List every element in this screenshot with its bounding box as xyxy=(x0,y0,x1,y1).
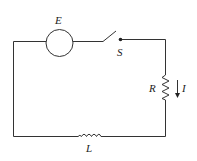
source-label: E xyxy=(54,14,62,26)
switch-blade-icon xyxy=(103,31,116,42)
inductor-label: L xyxy=(85,142,92,154)
circuit-diagram: E S R I L xyxy=(0,0,197,161)
resistor-icon xyxy=(162,75,169,100)
source-circle-icon xyxy=(46,30,73,57)
current-arrowhead-icon xyxy=(175,93,180,98)
top-right-wire xyxy=(122,40,166,76)
switch-label: S xyxy=(117,46,123,58)
switch-contact-icon xyxy=(119,38,123,42)
inductor-icon xyxy=(78,134,101,136)
resistor-label: R xyxy=(148,82,156,94)
current-label: I xyxy=(181,82,187,94)
